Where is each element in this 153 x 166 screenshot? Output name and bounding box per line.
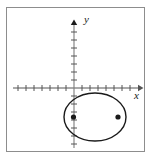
figure-container: y x xyxy=(0,0,153,166)
y-axis-arrowhead xyxy=(71,20,77,26)
y-axis-label: y xyxy=(83,13,89,25)
focus-point-left xyxy=(71,114,76,119)
x-axis-group xyxy=(13,85,144,91)
focus-point-right xyxy=(115,114,120,119)
y-axis-group xyxy=(71,20,77,149)
x-axis-label: x xyxy=(133,89,139,101)
coordinate-plane-graphic: y x xyxy=(0,0,153,166)
